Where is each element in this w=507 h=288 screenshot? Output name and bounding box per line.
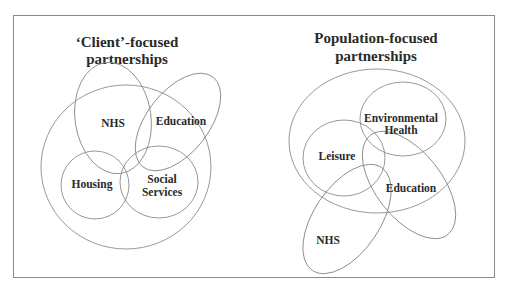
client-panel-title-line1: ‘Client’-focused [76, 34, 179, 50]
population-panel-title-line1: Population-focused [314, 30, 438, 46]
population-panel-title-line2: partnerships [335, 48, 417, 64]
population-focused-panel: Population-focused partnerships Environm… [285, 30, 474, 288]
education-label: Education [156, 115, 207, 127]
leisure-label: Leisure [319, 150, 356, 162]
nhs-label: NHS [316, 234, 340, 246]
client-focused-panel: ‘Client’-focused partnerships NHS Educat… [41, 34, 238, 249]
environmental-health-label-line2: Health [384, 124, 418, 136]
social-services-label-line1: Social [147, 173, 176, 185]
education-label: Education [386, 182, 437, 194]
environmental-health-label-line1: Environmental [364, 112, 438, 124]
nhs-ellipse [285, 149, 409, 288]
nhs-label: NHS [101, 117, 125, 129]
housing-label: Housing [72, 178, 113, 191]
population-outer-circle [289, 69, 465, 213]
venn-diagram-figure: ‘Client’-focused partnerships NHS Educat… [0, 0, 507, 288]
social-services-label-line2: Services [142, 186, 183, 198]
